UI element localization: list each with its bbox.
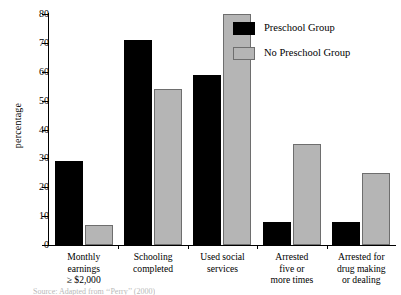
- legend-swatch: [233, 22, 255, 35]
- category-label-line: Used social: [184, 251, 261, 263]
- y-tick-20: 20: [0, 187, 49, 188]
- y-tick-label: 70: [23, 38, 49, 48]
- x-tick-mark: [327, 245, 328, 249]
- bar-preschool: [193, 75, 221, 245]
- y-tick-label: 20: [23, 182, 49, 192]
- category-label-line: Schooling: [114, 251, 191, 263]
- category-label-line: completed: [114, 263, 191, 275]
- legend-item: No Preschool Group: [233, 43, 398, 63]
- y-tick-80: 80: [0, 14, 49, 15]
- bar-no-preschool: [85, 225, 113, 245]
- bar-chart: percentage 01020304050607080 Monthlyearn…: [0, 0, 401, 295]
- y-tick-40: 40: [0, 130, 49, 131]
- y-tick-label: 50: [23, 96, 49, 106]
- category-label-line: or dealing: [323, 274, 400, 286]
- bar-preschool: [124, 40, 152, 245]
- y-tick-70: 70: [0, 43, 49, 44]
- category-label-line: ≥ $2,000: [45, 274, 122, 286]
- figure-caption-cutoff: Source: Adapted from ‘‘Perry’’ (2000): [33, 288, 155, 295]
- legend-label: Preschool Group: [264, 22, 335, 34]
- category-label-line: five or: [253, 263, 330, 275]
- y-tick-label: 10: [23, 211, 49, 221]
- category-label: Used socialservices: [184, 251, 261, 274]
- y-axis-label: percentage: [12, 76, 23, 176]
- bar-preschool: [263, 222, 291, 245]
- y-tick-50: 50: [0, 101, 49, 102]
- category-label-line: more times: [253, 274, 330, 286]
- category-label: Schoolingcompleted: [114, 251, 191, 274]
- category-label-line: earnings: [45, 263, 122, 275]
- bar-no-preschool: [154, 89, 182, 245]
- bar-group: [49, 14, 118, 245]
- y-tick-30: 30: [0, 158, 49, 159]
- x-tick-mark: [188, 245, 189, 249]
- y-tick-label: 80: [23, 9, 49, 19]
- category-label-line: Arrested for: [323, 251, 400, 263]
- y-tick-label: 60: [23, 67, 49, 77]
- x-axis-line: [48, 245, 396, 246]
- y-tick-60: 60: [0, 72, 49, 73]
- legend-item: Preschool Group: [233, 18, 398, 38]
- bar-preschool: [55, 161, 83, 245]
- legend: Preschool GroupNo Preschool Group: [233, 18, 398, 68]
- legend-label: No Preschool Group: [264, 47, 350, 59]
- category-label-line: drug making: [323, 263, 400, 275]
- bar-preschool: [332, 222, 360, 245]
- bar-no-preschool: [293, 144, 321, 245]
- y-tick-label: 0: [23, 240, 49, 250]
- category-label: Monthlyearnings≥ $2,000: [45, 251, 122, 286]
- bar-group: [118, 14, 187, 245]
- category-label-line: Monthly: [45, 251, 122, 263]
- category-label: Arrested fordrug makingor dealing: [323, 251, 400, 286]
- category-label-line: services: [184, 263, 261, 275]
- y-tick-0: 0: [0, 245, 49, 246]
- category-label-line: Arrested: [253, 251, 330, 263]
- bar-no-preschool: [362, 173, 390, 245]
- x-tick-mark: [118, 245, 119, 249]
- y-tick-label: 30: [23, 153, 49, 163]
- y-tick-label: 40: [23, 125, 49, 135]
- legend-swatch: [233, 47, 255, 60]
- x-tick-mark: [257, 245, 258, 249]
- category-label: Arrestedfive ormore times: [253, 251, 330, 286]
- y-tick-10: 10: [0, 216, 49, 217]
